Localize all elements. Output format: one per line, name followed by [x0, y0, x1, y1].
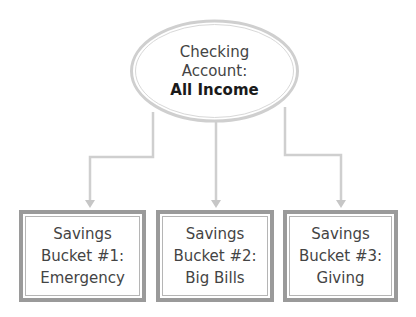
bucket-3-line-3: Giving	[317, 267, 365, 289]
bucket-inner: Savings Bucket #2: Big Bills	[162, 216, 268, 296]
bucket-1-line-3: Emergency	[40, 267, 125, 289]
connector-left	[90, 112, 153, 202]
bucket-2-line-1: Savings	[186, 223, 245, 245]
arrow-head-left-icon	[85, 200, 95, 208]
bucket-inner: Savings Bucket #1: Emergency	[25, 216, 140, 296]
bucket-box-giving: Savings Bucket #3: Giving	[283, 210, 398, 302]
arrow-head-right-icon	[336, 200, 346, 208]
arrow-head-center-icon	[211, 200, 221, 208]
bucket-1-line-2: Bucket #1:	[41, 245, 124, 267]
root-line-3: All Income	[170, 81, 258, 100]
bucket-box-big-bills: Savings Bucket #2: Big Bills	[156, 210, 274, 302]
bucket-3-line-1: Savings	[311, 223, 370, 245]
bucket-1-line-1: Savings	[53, 223, 112, 245]
bucket-2-line-2: Bucket #2:	[173, 245, 256, 267]
root-line-2: Account:	[182, 62, 248, 81]
bucket-box-emergency: Savings Bucket #1: Emergency	[19, 210, 146, 302]
root-node-checking-account: Checking Account: All Income	[131, 20, 298, 122]
bucket-inner: Savings Bucket #3: Giving	[289, 216, 392, 296]
bucket-3-line-2: Bucket #3:	[299, 245, 382, 267]
root-line-1: Checking	[180, 43, 249, 62]
bucket-2-line-3: Big Bills	[185, 267, 244, 289]
savings-diagram: Checking Account: All Income Savings Buc…	[0, 0, 416, 317]
